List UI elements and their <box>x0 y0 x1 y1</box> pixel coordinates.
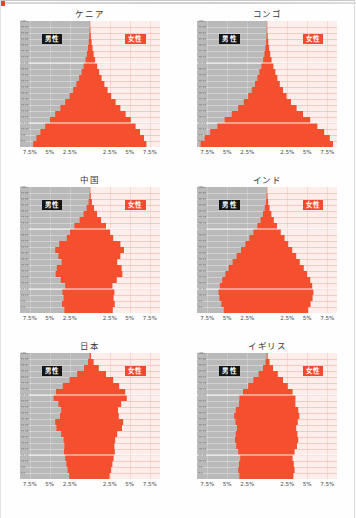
age-group-label: 75-79 <box>198 217 215 220</box>
age-group-label: 80-84 <box>21 45 38 48</box>
age-group-label: 100+ <box>198 187 215 190</box>
age-group-label: 30-34 <box>21 437 38 440</box>
age-group-label: 45-49 <box>21 87 38 90</box>
age-group-label: 55-59 <box>198 407 215 410</box>
x-axis-tick-label: 2.5% <box>240 315 254 321</box>
age-group-label: 40-44 <box>21 259 38 262</box>
x-axis-tick-label: 7.5% <box>23 481 37 487</box>
x-axis-tick-label: 7.5% <box>23 149 37 155</box>
x-axis-tick-label: 2.5% <box>240 481 254 487</box>
age-group-label: 0-4 <box>21 141 38 144</box>
age-group-label: 75-79 <box>198 51 215 54</box>
x-axis-tick-label: 5% <box>303 481 312 487</box>
age-group-label: 80-84 <box>198 45 215 48</box>
age-group-label: 90-94 <box>21 365 38 368</box>
x-axis-tick-label: 7.5% <box>320 315 334 321</box>
plot-area: 100+95-9990-9485-8980-8475-7970-7465-696… <box>197 353 337 479</box>
age-group-label: 95-99 <box>198 27 215 30</box>
age-group-label: 55-59 <box>198 75 215 78</box>
age-group-label: 20-24 <box>21 117 38 120</box>
age-group-label: 45-49 <box>198 87 215 90</box>
age-group-label: 15-19 <box>198 123 215 126</box>
age-group-label: 30-34 <box>198 105 215 108</box>
age-group-label: 40-44 <box>198 259 215 262</box>
age-group-label: 70-74 <box>21 57 38 60</box>
age-group-label: 100+ <box>21 21 38 24</box>
age-group-label: 95-99 <box>198 359 215 362</box>
age-group-label: 35-39 <box>198 265 215 268</box>
age-group-label: 35-39 <box>21 265 38 268</box>
age-group-label: 85-89 <box>198 205 215 208</box>
age-group-label: 10-14 <box>198 129 215 132</box>
age-group-labels: 100+95-9990-9485-8980-8475-7970-7465-696… <box>21 187 38 313</box>
age-group-label: 95-99 <box>21 359 38 362</box>
age-group-label: 40-44 <box>21 425 38 428</box>
age-group-label: 45-49 <box>198 253 215 256</box>
age-group-label: 65-69 <box>198 395 215 398</box>
age-group-label: 20-24 <box>198 449 215 452</box>
age-group-label: 20-24 <box>21 449 38 452</box>
age-group-labels: 100+95-9990-9485-8980-8475-7970-7465-696… <box>198 353 215 479</box>
age-group-label: 100+ <box>21 353 38 356</box>
x-axis-tick-label: 2.5% <box>240 149 254 155</box>
age-group-label: 70-74 <box>198 57 215 60</box>
age-group-label: 95-99 <box>198 193 215 196</box>
x-axis: 7.5%5%2.5%2.5%5%7.5% <box>197 315 337 327</box>
x-axis-tick-label: 5% <box>45 149 54 155</box>
age-group-label: 85-89 <box>198 39 215 42</box>
age-group-labels: 100+95-9990-9485-8980-8475-7970-7465-696… <box>21 353 38 479</box>
age-group-label: 60-64 <box>21 235 38 238</box>
plot-area: 100+95-9990-9485-8980-8475-7970-7465-696… <box>20 21 160 147</box>
x-axis-tick-label: 2.5% <box>103 149 117 155</box>
age-group-label: 40-44 <box>21 93 38 96</box>
plot-area: 100+95-9990-9485-8980-8475-7970-7465-696… <box>20 353 160 479</box>
x-axis: 7.5%5%2.5%2.5%5%7.5% <box>20 315 160 327</box>
age-group-label: 5-9 <box>198 135 215 138</box>
legend-badge-male: 男性 <box>42 366 63 376</box>
age-group-label: 95-99 <box>21 193 38 196</box>
age-group-label: 55-59 <box>198 241 215 244</box>
panel-title: 日本 <box>7 339 173 353</box>
legend-badge-female: 女性 <box>303 366 324 376</box>
female-population-area <box>90 187 124 313</box>
female-population-area <box>267 21 333 147</box>
x-axis-tick-label: 2.5% <box>280 481 294 487</box>
age-group-label: 85-89 <box>198 371 215 374</box>
age-group-label: 25-29 <box>198 443 215 446</box>
age-group-label: 45-49 <box>21 253 38 256</box>
panel-title: 中国 <box>7 173 173 187</box>
age-group-label: 0-4 <box>198 141 215 144</box>
pyramid-chart-grid: ケニア100+95-9990-9485-8980-8475-7970-7465-… <box>1 7 356 505</box>
age-group-label: 50-54 <box>198 413 215 416</box>
x-axis-tick-label: 5% <box>223 149 232 155</box>
x-axis-tick-label: 2.5% <box>63 315 77 321</box>
legend-badge-male: 男性 <box>219 34 240 44</box>
legend-badge-female: 女性 <box>303 200 324 210</box>
age-group-label: 30-34 <box>198 437 215 440</box>
x-axis: 7.5%5%2.5%2.5%5%7.5% <box>197 149 337 161</box>
age-group-label: 55-59 <box>21 241 38 244</box>
age-group-label: 90-94 <box>198 33 215 36</box>
plot-area: 100+95-9990-9485-8980-8475-7970-7465-696… <box>197 21 337 147</box>
age-group-label: 5-9 <box>21 301 38 304</box>
x-axis-tick-label: 7.5% <box>320 149 334 155</box>
pyramid-panel: インド100+95-9990-9485-8980-8475-7970-7465-… <box>184 173 350 339</box>
corner-accent-mark <box>1 1 5 6</box>
age-group-label: 100+ <box>21 187 38 190</box>
x-axis-tick-label: 7.5% <box>143 149 157 155</box>
age-group-label: 70-74 <box>198 223 215 226</box>
pyramid-panel: 日本100+95-9990-9485-8980-8475-7970-7465-6… <box>7 339 173 505</box>
age-group-label: 35-39 <box>198 99 215 102</box>
age-group-label: 85-89 <box>21 205 38 208</box>
age-group-label: 90-94 <box>198 199 215 202</box>
age-group-label: 60-64 <box>198 401 215 404</box>
age-group-label: 10-14 <box>21 129 38 132</box>
age-group-label: 50-54 <box>21 81 38 84</box>
age-group-label: 50-54 <box>198 81 215 84</box>
age-group-label: 90-94 <box>21 199 38 202</box>
x-axis-tick-label: 7.5% <box>200 481 214 487</box>
panel-title: イギリス <box>184 339 350 353</box>
age-group-label: 90-94 <box>198 365 215 368</box>
age-group-label: 15-19 <box>198 455 215 458</box>
x-axis-tick-label: 5% <box>223 481 232 487</box>
